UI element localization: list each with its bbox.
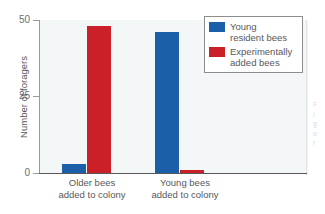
legend-swatch-red-icon xyxy=(209,47,225,57)
x-category-label-group2-line2: added to colony xyxy=(135,189,235,201)
margin-artifact-line-5: r xyxy=(313,138,325,148)
x-axis-line xyxy=(39,173,307,174)
bar-group1-experimentally-added[interactable] xyxy=(87,26,111,173)
bar-group1-young-resident[interactable] xyxy=(62,164,86,173)
legend-swatch-blue-icon xyxy=(209,22,225,32)
x-category-label-group1-line2: added to colony xyxy=(42,189,142,201)
y-tick-label-0: 0 xyxy=(24,168,30,178)
bar-group2-young-resident[interactable] xyxy=(155,32,179,173)
legend-label-young-resident-bees: Young resident bees xyxy=(230,21,287,43)
legend: Young resident bees Experimentally added… xyxy=(204,16,303,73)
legend-entry-young-resident-bees[interactable]: Young resident bees xyxy=(209,21,297,43)
legend-label-young-resident-bees-line2: resident bees xyxy=(230,32,287,43)
x-category-label-group1: Older bees added to colony xyxy=(42,177,142,200)
page-margin-artifact: F i g u r xyxy=(313,100,325,162)
legend-label-experimentally-added-bees-line2: added bees xyxy=(230,57,292,68)
margin-artifact-line-3: g xyxy=(313,119,325,129)
legend-label-experimentally-added-bees: Experimentally added bees xyxy=(230,46,292,68)
legend-label-young-resident-bees-line1: Young xyxy=(230,21,287,32)
y-tick-mark-0 xyxy=(33,173,39,174)
margin-artifact-line-1: F xyxy=(313,100,325,110)
bar-chart-figure: 50 25 0 Number of foragers Older bees ad… xyxy=(0,0,325,214)
x-category-label-group2-line1: Young bees xyxy=(135,177,235,189)
margin-artifact-line-2: i xyxy=(313,110,325,120)
bar-group2-experimentally-added[interactable] xyxy=(180,170,204,173)
x-category-label-group1-line1: Older bees xyxy=(42,177,142,189)
legend-label-experimentally-added-bees-line1: Experimentally xyxy=(230,46,292,57)
margin-artifact-line-4: u xyxy=(313,129,325,139)
y-tick-label-50: 50 xyxy=(19,15,30,25)
x-category-label-group2: Young bees added to colony xyxy=(135,177,235,200)
y-axis-title: Number of foragers xyxy=(19,27,29,167)
legend-entry-experimentally-added-bees[interactable]: Experimentally added bees xyxy=(209,46,297,68)
